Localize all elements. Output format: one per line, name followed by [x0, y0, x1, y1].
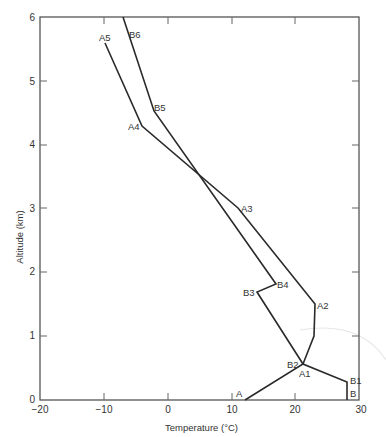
y-ticks-right [352, 81, 359, 336]
label-A4: A4 [128, 121, 140, 132]
y-tick-label: 2 [29, 266, 35, 277]
x-ticks-top [104, 17, 295, 24]
y-tick-label: 1 [29, 330, 35, 341]
x-tick-labels: −20 −10 0 10 20 30 [32, 404, 367, 415]
x-tick-label: 20 [289, 404, 301, 415]
label-A1: A1 [299, 368, 311, 379]
label-A: A [236, 388, 243, 399]
label-A2: A2 [317, 300, 329, 311]
y-ticks-left [40, 81, 47, 336]
y-tick-labels: 0 1 2 3 4 5 6 [29, 12, 35, 405]
label-A5: A5 [99, 32, 111, 43]
y-tick-label: 0 [29, 394, 35, 405]
x-tick-label: 10 [226, 404, 238, 415]
y-tick-label: 4 [29, 139, 35, 150]
x-tick-label: 0 [165, 404, 171, 415]
y-tick-label: 5 [29, 76, 35, 87]
label-B2: B2 [287, 359, 299, 370]
chart: −20 −10 0 10 20 30 0 1 2 3 4 5 6 Tempera… [0, 0, 386, 437]
x-axis-title: Temperature (°C) [165, 422, 238, 433]
y-tick-label: 6 [29, 12, 35, 23]
label-B6: B6 [129, 29, 141, 40]
x-tick-label: 30 [355, 404, 367, 415]
label-B1: B1 [350, 375, 362, 386]
point-labels: A A1 A2 A3 A4 A5 B B1 B2 B3 B4 B5 B6 [99, 29, 362, 399]
x-tick-label: −20 [32, 404, 49, 415]
series-a-line [105, 43, 315, 400]
label-A3: A3 [241, 203, 253, 214]
scan-artifact-arc [300, 328, 386, 360]
y-tick-label: 3 [29, 203, 35, 214]
x-tick-label: −10 [96, 404, 113, 415]
label-B3: B3 [243, 287, 255, 298]
y-axis-title: Altitude (km) [14, 210, 25, 263]
label-B: B [350, 388, 356, 399]
label-B4: B4 [277, 279, 289, 290]
series-b-line [123, 17, 347, 400]
label-B5: B5 [154, 102, 166, 113]
x-ticks-bottom [104, 393, 295, 400]
